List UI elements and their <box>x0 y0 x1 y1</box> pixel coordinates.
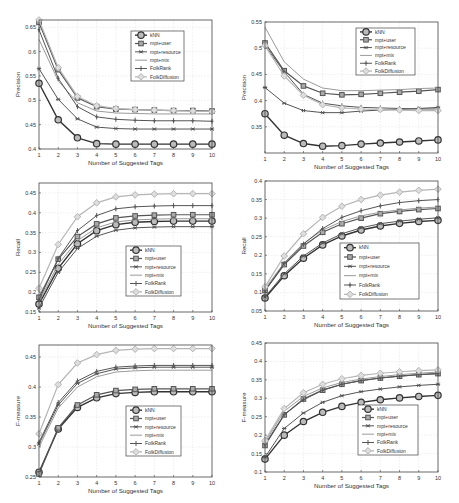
y-tick-label: 0.4 <box>28 146 36 152</box>
legend-label: FolkRank <box>145 280 167 286</box>
legend-label: mpt+mix <box>150 57 170 63</box>
y-tick-label: 0.15 <box>25 309 36 315</box>
x-tick-label: 8 <box>398 314 401 320</box>
x-tick-label: 10 <box>435 156 441 162</box>
x-tick-label: 5 <box>340 314 343 320</box>
legend-label: FolkRank <box>377 439 399 445</box>
y-axis-label: Precision <box>240 74 247 100</box>
circle-big-marker-icon <box>190 141 196 147</box>
circle-big-marker-icon <box>396 139 402 145</box>
square-marker-icon <box>364 37 369 42</box>
legend-label: mpt+resource <box>150 49 181 55</box>
subplot-precision-left: 123456789100.40.450.50.550.60.65Number o… <box>14 17 215 166</box>
x-tick-label: 7 <box>379 475 382 481</box>
circle-big-marker-icon <box>358 399 364 405</box>
circle-big-marker-icon <box>151 141 157 147</box>
legend-label: mpt+user <box>377 414 398 420</box>
x-tick-label: 6 <box>360 156 363 162</box>
square-marker-icon <box>348 255 353 260</box>
x-axis-label: Number of Suggested Tags <box>88 322 163 329</box>
x-tick-label: 5 <box>114 480 117 486</box>
square-marker-icon <box>114 216 119 221</box>
x-axis-label: Number of Suggested Tags <box>314 163 389 170</box>
circle-big-marker-icon <box>377 397 383 403</box>
legend-label: kNN <box>145 247 155 253</box>
legend-label: FolkRank <box>375 60 397 66</box>
x-tick-label: 5 <box>340 156 343 162</box>
x-tick-label: 3 <box>302 314 305 320</box>
circle-big-marker-icon <box>93 140 99 146</box>
x-tick-label: 2 <box>57 480 60 486</box>
x-tick-label: 9 <box>417 156 420 162</box>
legend-entry: mpt+user <box>344 254 380 260</box>
legend: kNNmpt+usermpt+resourcempt+mixFolkRankFo… <box>126 406 181 456</box>
square-marker-icon <box>171 212 176 217</box>
y-tick-label: 0.45 <box>251 71 262 77</box>
square-marker-icon <box>320 91 325 96</box>
y-tick-label: 0.5 <box>254 45 262 51</box>
y-tick-label: 0.35 <box>251 197 262 203</box>
x-tick-label: 9 <box>191 480 194 486</box>
legend-label: mpt+user <box>359 254 380 260</box>
legend-label: mpt+mix <box>145 432 165 438</box>
circle-big-marker-icon <box>365 406 371 412</box>
y-tick-label: 0.1 <box>254 289 262 295</box>
circle-big-marker-icon <box>170 141 176 147</box>
legend-label: mpt+resource <box>145 424 176 430</box>
x-tick-label: 8 <box>172 315 175 321</box>
y-tick-label: 0.35 <box>25 230 36 236</box>
x-tick-label: 8 <box>398 475 401 481</box>
square-marker-icon <box>133 214 138 219</box>
legend-label: kNN <box>377 406 387 412</box>
y-tick-label: 0.2 <box>254 432 262 438</box>
legend-label: FolkRank <box>150 65 172 71</box>
square-marker-icon <box>301 84 306 89</box>
x-tick-label: 4 <box>321 156 324 162</box>
x-tick-label: 9 <box>417 314 420 320</box>
square-marker-icon <box>171 387 176 392</box>
circle-big-marker-icon <box>319 409 325 415</box>
x-tick-label: 5 <box>114 315 117 321</box>
x-tick-label: 1 <box>263 156 266 162</box>
x-tick-label: 6 <box>134 315 137 321</box>
y-tick-label: 0.25 <box>25 474 36 480</box>
figure-grid: 123456789100.40.450.50.550.60.65Number o… <box>0 0 459 503</box>
x-tick-label: 7 <box>379 314 382 320</box>
x-tick-label: 1 <box>263 475 266 481</box>
circle-big-marker-icon <box>55 117 61 123</box>
y-tick-label: 0.1 <box>254 469 262 475</box>
y-tick-label: 0.15 <box>251 451 262 457</box>
subplot-fmeasure-right: 123456789100.10.150.20.250.30.350.40.45N… <box>240 340 441 489</box>
square-marker-icon <box>152 213 157 218</box>
y-tick-label: 0.45 <box>25 122 36 128</box>
y-axis-label: F-measure <box>14 395 21 425</box>
legend-entry: mpt+user <box>130 255 166 261</box>
x-tick-label: 2 <box>283 314 286 320</box>
y-tick-label: 0.15 <box>251 271 262 277</box>
circle-big-marker-icon <box>74 135 80 141</box>
x-axis-label: Number of Suggested Tags <box>314 321 389 328</box>
x-tick-label: 3 <box>76 315 79 321</box>
x-tick-label: 5 <box>340 475 343 481</box>
circle-big-marker-icon <box>319 143 325 149</box>
legend-label: FolkRank <box>359 282 381 288</box>
x-tick-label: 4 <box>321 314 324 320</box>
legend-label: mpt+mix <box>375 52 395 58</box>
x-axis-label: Number of Suggested Tags <box>88 487 163 494</box>
circle-big-marker-icon <box>281 132 287 138</box>
square-marker-icon <box>378 91 383 96</box>
x-tick-label: 10 <box>435 314 441 320</box>
y-tick-label: 0.25 <box>25 269 36 275</box>
x-tick-label: 2 <box>57 315 60 321</box>
y-tick-label: 0.25 <box>251 234 262 240</box>
legend-label: mpt+user <box>375 37 396 43</box>
y-tick-label: 0.35 <box>25 414 36 420</box>
legend-label: FolkDiffusion <box>359 291 388 297</box>
legend-label: kNN <box>375 29 385 35</box>
legend-label: kNN <box>359 244 369 250</box>
legend-label: mpt+mix <box>359 272 379 278</box>
square-marker-icon <box>190 387 195 392</box>
circle-big-marker-icon <box>339 142 345 148</box>
square-marker-icon <box>139 41 144 46</box>
square-marker-icon <box>397 90 402 95</box>
